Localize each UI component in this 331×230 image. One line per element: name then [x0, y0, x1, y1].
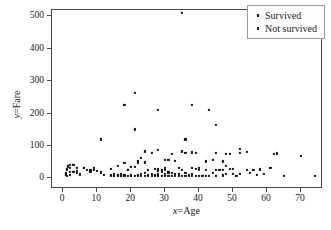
data-point — [123, 104, 125, 106]
x-tick-label: 50 — [227, 193, 237, 204]
data-point — [273, 153, 275, 155]
data-point — [174, 160, 176, 162]
data-point — [184, 152, 186, 154]
data-point — [93, 168, 95, 170]
x-axis-label: x=Age — [51, 205, 322, 216]
data-point — [150, 173, 152, 175]
data-point — [130, 174, 132, 176]
data-point — [120, 175, 122, 177]
data-point — [137, 159, 139, 161]
data-point — [232, 168, 234, 170]
data-point — [225, 153, 227, 155]
data-point — [252, 169, 254, 171]
data-point — [235, 175, 237, 177]
data-point — [164, 168, 166, 170]
data-point — [181, 150, 183, 152]
data-point — [157, 168, 159, 170]
legend-item-label: Survived — [263, 10, 301, 22]
data-point — [144, 161, 146, 163]
data-point — [239, 152, 241, 154]
data-point — [127, 169, 129, 171]
x-tick-label: 40 — [193, 193, 203, 204]
data-point — [130, 166, 132, 168]
x-tick-mark — [130, 188, 131, 192]
data-point — [133, 175, 135, 177]
legend-point-icon — [253, 27, 263, 29]
data-point — [191, 167, 193, 169]
data-point — [161, 170, 163, 172]
data-point — [205, 169, 207, 171]
data-point — [113, 175, 115, 177]
data-point — [184, 138, 186, 140]
y-tick-label: 200 — [30, 107, 44, 118]
data-point — [66, 175, 68, 177]
data-point — [123, 162, 125, 164]
data-point — [99, 138, 101, 140]
data-point — [69, 164, 71, 166]
data-point — [133, 128, 135, 130]
data-point — [110, 168, 112, 170]
data-point — [133, 92, 135, 94]
data-point — [82, 167, 84, 169]
data-point — [103, 174, 105, 176]
data-point — [150, 152, 152, 154]
data-point — [65, 172, 67, 174]
legend-item: Survived — [253, 9, 317, 22]
data-point — [208, 175, 210, 177]
scatter-chart-figure: y=Fare 0100200300400500 010203040506070 … — [0, 0, 331, 230]
data-point — [76, 172, 78, 174]
data-point — [229, 153, 231, 155]
data-point — [184, 175, 186, 177]
data-point — [76, 170, 78, 172]
data-point — [144, 150, 146, 152]
data-point — [215, 152, 217, 154]
data-point — [259, 168, 261, 170]
data-point — [222, 160, 224, 162]
data-point — [140, 157, 142, 159]
data-point — [69, 170, 71, 172]
data-point — [171, 153, 173, 155]
data-point — [239, 148, 241, 150]
legend-point-icon — [253, 14, 263, 16]
data-point — [137, 174, 139, 176]
data-point — [99, 171, 101, 173]
data-point — [167, 171, 169, 173]
data-point — [69, 174, 71, 176]
legend-item-label: Not survived — [263, 23, 317, 35]
data-point — [96, 169, 98, 171]
data-point — [181, 169, 183, 171]
data-point — [167, 175, 169, 177]
data-point — [191, 104, 193, 106]
data-point — [110, 175, 112, 177]
data-point — [147, 169, 149, 171]
data-point — [222, 169, 224, 171]
data-point — [150, 175, 152, 177]
data-point — [218, 169, 220, 171]
data-point — [184, 172, 186, 174]
data-point — [195, 168, 197, 170]
data-point — [72, 164, 74, 166]
data-point — [116, 165, 118, 167]
data-point — [225, 165, 227, 167]
x-tick-mark — [198, 188, 199, 192]
data-point — [201, 175, 203, 177]
data-point — [154, 174, 156, 176]
data-point — [178, 173, 180, 175]
data-point — [137, 161, 139, 163]
data-point — [212, 159, 214, 161]
data-point — [188, 174, 190, 176]
data-point — [313, 175, 315, 177]
x-tick-mark — [164, 188, 165, 192]
y-axis-label: y=Fare — [11, 75, 22, 135]
y-tick-label: 0 — [39, 172, 44, 183]
data-point — [133, 166, 135, 168]
data-point — [195, 175, 197, 177]
x-tick-label: 0 — [60, 193, 65, 204]
data-point — [262, 173, 264, 175]
data-point — [178, 167, 180, 169]
data-point — [269, 167, 271, 169]
data-point — [215, 168, 217, 170]
data-point — [232, 173, 234, 175]
data-point — [89, 170, 91, 172]
y-axis-label-variable: y — [11, 114, 22, 118]
